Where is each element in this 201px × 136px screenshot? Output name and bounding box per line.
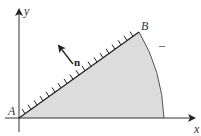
normal-vector-arrow — [59, 46, 73, 64]
shaded-region — [19, 32, 164, 118]
point-a-label: A — [7, 104, 16, 118]
x-axis-label: x — [193, 122, 200, 136]
y-axis-label: y — [23, 4, 30, 18]
normal-label: n — [74, 56, 80, 68]
tick-mark: – — [158, 38, 166, 52]
sector-diagram: n A B y x – — [0, 0, 201, 136]
point-b-label: B — [141, 19, 149, 33]
